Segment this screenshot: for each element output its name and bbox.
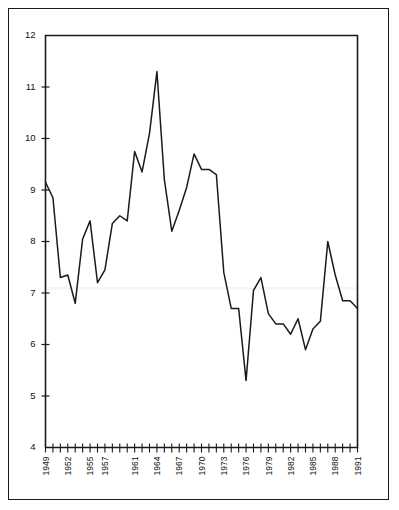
y-axis-tick-label: 12: [25, 29, 36, 40]
x-axis-tick-label: 1964: [152, 456, 162, 475]
y-axis-tick-label: 4: [30, 441, 35, 452]
y-axis-tick-labels: 456789101112: [25, 29, 36, 452]
x-axis-tick-label: 1957: [100, 456, 110, 475]
x-axis-tick-label: 1982: [286, 456, 296, 475]
x-axis-tick-label: 1979: [264, 456, 274, 475]
x-axis-tick-label: 1976: [241, 456, 251, 475]
y-axis-tick-label: 9: [30, 184, 35, 195]
x-axis-tick-label: 1967: [174, 456, 184, 475]
faint-background-rules: [46, 288, 358, 289]
y-axis-tick-label: 8: [30, 235, 35, 246]
y-axis-tick-label: 5: [30, 390, 35, 401]
line-chart-svg: 456789101112 194919521955195719611964196…: [0, 0, 399, 510]
x-axis-tick-label: 1988: [330, 456, 340, 475]
x-axis-tick-label: 1949: [41, 456, 51, 475]
y-axis-tick-label: 6: [30, 338, 35, 349]
x-axis-tick-label: 1973: [219, 456, 229, 475]
chart-figure: 456789101112 194919521955195719611964196…: [0, 0, 399, 510]
y-axis-tick-label: 7: [30, 287, 35, 298]
chart-canvas: 456789101112 194919521955195719611964196…: [0, 0, 399, 510]
x-axis-tick-labels: 1949195219551957196119641967197019731976…: [41, 456, 363, 475]
y-axis-tick-label: 10: [25, 132, 36, 143]
x-axis-tick-label: 1991: [353, 456, 363, 475]
y-axis-tick-label: 11: [26, 81, 36, 92]
series-line-series-1: [46, 72, 358, 381]
x-axis-tick-label: 1961: [130, 456, 140, 475]
x-axis-tick-label: 1952: [63, 456, 73, 475]
data-series-line: [46, 72, 358, 381]
x-axis-tick-label: 1970: [197, 456, 207, 475]
x-axis-tick-label: 1985: [308, 456, 318, 475]
x-axis-tick-label: 1955: [85, 456, 95, 475]
